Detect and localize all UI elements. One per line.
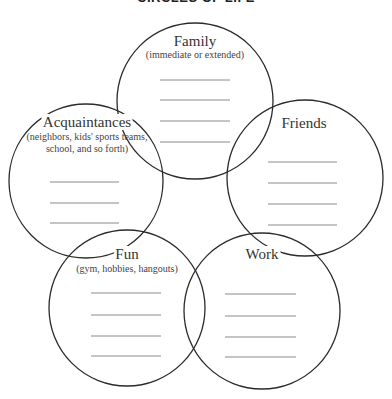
label-fun-name: Fun: [114, 246, 139, 262]
circles-of-life-diagram: CIRCLES OF LIFE: [0, 0, 392, 399]
label-friends: Friends: [282, 115, 327, 131]
label-work: Work: [244, 245, 281, 263]
label-family: Family (immediate or extended): [146, 33, 244, 61]
label-acquaintances-name: Acquaintances: [42, 114, 132, 130]
fun-write-lines[interactable]: [91, 293, 161, 356]
work-write-lines[interactable]: [225, 294, 296, 357]
label-work-name: Work: [244, 246, 281, 262]
acquaintances-write-lines[interactable]: [50, 182, 119, 223]
label-family-subtitle: (immediate or extended): [146, 49, 244, 61]
label-fun-subtitle: (gym, hobbies, hangouts): [76, 263, 178, 275]
friends-write-lines[interactable]: [268, 162, 337, 225]
label-family-name: Family: [146, 33, 244, 49]
label-acquaintances-subtitle-2: school, and so forth): [27, 143, 148, 155]
family-write-lines[interactable]: [160, 80, 230, 142]
label-fun: Fun (gym, hobbies, hangouts): [76, 245, 178, 275]
label-friends-name: Friends: [282, 115, 327, 131]
label-acquaintances-subtitle-1: (neighbors, kids' sports teams,: [27, 131, 148, 143]
label-acquaintances: Acquaintances (neighbors, kids' sports t…: [27, 113, 148, 155]
